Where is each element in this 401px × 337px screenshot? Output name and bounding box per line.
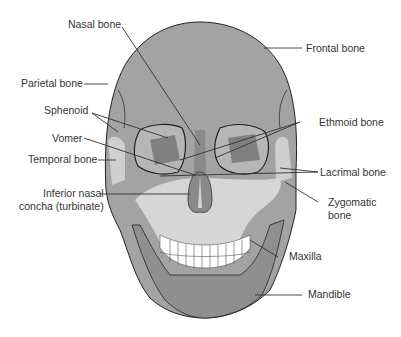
label-zygomatic-2: bone xyxy=(328,209,351,221)
label-inferior-nasal-2: concha (turbinate) xyxy=(19,200,104,212)
orbit-left-inner xyxy=(150,135,180,165)
label-maxilla: Maxilla xyxy=(289,250,322,262)
label-lacrimal-bone: Lacrimal bone xyxy=(320,166,386,178)
label-inferior-nasal-1: Inferior nasal xyxy=(43,187,104,199)
label-parietal-bone: Parietal bone xyxy=(21,77,83,89)
label-sphenoid: Sphenoid xyxy=(44,104,88,116)
label-zygomatic-1: Zygomatic xyxy=(328,196,376,208)
label-mandible: Mandible xyxy=(308,288,351,300)
label-frontal-bone: Frontal bone xyxy=(306,42,365,54)
label-ethmoid-bone: Ethmoid bone xyxy=(319,116,384,128)
label-temporal-bone: Temporal bone xyxy=(28,153,97,165)
orbit-right-inner xyxy=(228,134,260,163)
label-vomer: Vomer xyxy=(52,132,82,144)
label-nasal-bone: Nasal bone xyxy=(68,18,121,30)
